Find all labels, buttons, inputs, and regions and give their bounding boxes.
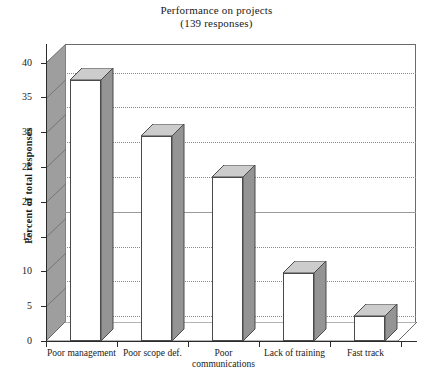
x-axis-line xyxy=(46,341,417,342)
gridline-40 xyxy=(65,73,416,74)
x-label-fast-track: Fast track xyxy=(330,348,401,359)
x-tick-1 xyxy=(117,341,118,347)
y-tick-20 xyxy=(41,202,46,203)
bar-front-face xyxy=(141,136,172,341)
y-axis-line xyxy=(46,44,47,342)
bar-front-face xyxy=(283,273,314,341)
x-tick-0 xyxy=(46,341,47,347)
y-label-0: 0 xyxy=(8,336,38,346)
y-label-35: 35 xyxy=(8,92,38,102)
y-tick-15 xyxy=(41,237,46,238)
bar-front-face xyxy=(354,316,385,341)
bar-poor-management xyxy=(70,80,101,341)
plot-area: 40 35 30 25 20 15 10 5 0 Percent of tota… xyxy=(0,0,433,383)
plot-left-wall xyxy=(46,44,66,341)
y-tick-35 xyxy=(41,97,46,98)
x-tick-4 xyxy=(330,341,331,347)
y-label-10: 10 xyxy=(8,266,38,276)
x-label-poor-scope-def: Poor scope def. xyxy=(117,348,188,359)
bar-lack-of-training xyxy=(283,273,314,341)
y-label-40: 40 xyxy=(8,58,38,68)
y-axis-title: Percent of total responses xyxy=(23,106,34,266)
gridline-35 xyxy=(65,107,416,108)
bar-side-face xyxy=(385,304,398,342)
y-tick-10 xyxy=(41,271,46,272)
bar-fast-track xyxy=(354,316,385,341)
bar-front-face xyxy=(212,177,243,341)
y-tick-40 xyxy=(41,63,46,64)
y-tick-30 xyxy=(41,132,46,133)
x-tick-2 xyxy=(188,341,189,347)
bar-side-face xyxy=(243,165,256,342)
y-tick-25 xyxy=(41,167,46,168)
x-label-poor-management: Poor management xyxy=(46,348,117,359)
bar-poor-scope-def xyxy=(141,136,172,341)
bar-side-face xyxy=(101,68,114,342)
bar-side-face xyxy=(172,124,185,342)
x-tick-5 xyxy=(401,341,402,347)
bar-front-face xyxy=(70,80,101,341)
x-label-poor-communications: Poor communications xyxy=(188,348,259,370)
gridline-30 xyxy=(65,142,416,143)
bar-poor-communications xyxy=(212,177,243,341)
y-tick-5 xyxy=(41,306,46,307)
bar-side-face xyxy=(314,261,327,342)
chart-figure: Performance on projects (139 responses) xyxy=(0,0,433,383)
x-tick-3 xyxy=(259,341,260,347)
y-label-5: 5 xyxy=(8,301,38,311)
x-label-lack-of-training: Lack of training xyxy=(259,348,330,359)
